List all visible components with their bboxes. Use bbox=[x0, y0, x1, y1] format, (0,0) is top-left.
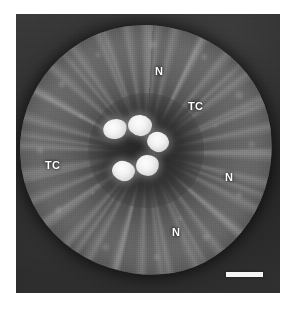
figure-root: N TC TC N N bbox=[0, 0, 294, 313]
cortex-texture bbox=[16, 19, 278, 282]
micrograph-panel: N TC TC N N bbox=[16, 14, 280, 293]
label-tc-left: TC bbox=[45, 160, 60, 171]
radial-ray-pattern bbox=[16, 19, 278, 282]
root-section-container bbox=[16, 14, 280, 293]
label-n-right: N bbox=[225, 172, 233, 183]
radial-ray-pattern-secondary bbox=[16, 19, 278, 282]
label-n-bottom: N bbox=[172, 227, 180, 238]
label-tc-right: TC bbox=[188, 101, 203, 112]
root-cross-section bbox=[16, 19, 278, 282]
scale-bar bbox=[226, 272, 263, 277]
label-n-top: N bbox=[155, 66, 163, 77]
